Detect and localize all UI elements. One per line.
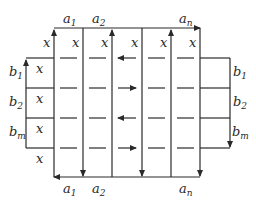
label-b1-left: b1 <box>9 64 23 81</box>
cell-x: x <box>36 61 44 76</box>
label-an-top: an <box>179 11 193 28</box>
label-a2-bottom: a2 <box>92 181 106 198</box>
grid-diagram: x x x x x x x x x x a1 a2 an a1 a2 an b1… <box>0 0 256 204</box>
cell-x: x <box>189 35 197 50</box>
cell-x: x <box>131 35 139 50</box>
label-a1-bottom: a1 <box>63 181 77 198</box>
label-b2-right: b2 <box>233 94 247 111</box>
cell-x: x <box>36 91 44 106</box>
label-b1-right: b1 <box>233 64 247 81</box>
label-an-bottom: an <box>179 181 193 198</box>
label-bm-left: bm <box>9 124 26 141</box>
cell-x: x <box>101 35 109 50</box>
cell-x: x <box>160 35 168 50</box>
cell-x: x <box>43 35 51 50</box>
label-a2-top: a2 <box>92 11 106 28</box>
label-b2-left: b2 <box>9 94 23 111</box>
cell-x: x <box>72 35 80 50</box>
row-dashes <box>60 58 194 148</box>
label-a1-top: a1 <box>63 11 77 28</box>
cell-x: x <box>36 151 44 166</box>
label-bm-right: bm <box>232 124 249 141</box>
cell-x: x <box>36 121 44 136</box>
